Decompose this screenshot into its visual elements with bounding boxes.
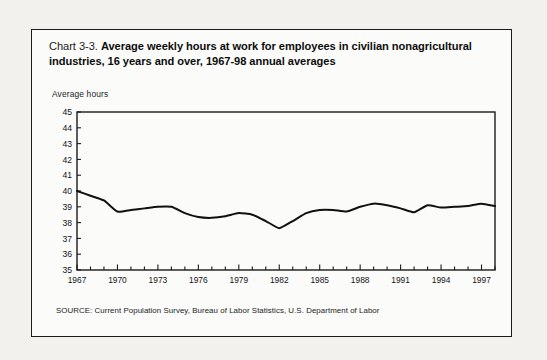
x-tick-label: 1988 <box>351 275 370 285</box>
y-tick-label: 43 <box>62 139 72 149</box>
y-tick-label: 36 <box>62 249 72 259</box>
y-tick-label: 39 <box>62 202 72 212</box>
chart-title-block: Chart 3-3. Average weekly hours at work … <box>49 39 489 68</box>
chart-figure-frame: Chart 3-3. Average weekly hours at work … <box>31 29 512 337</box>
x-tick-label: 1979 <box>229 275 248 285</box>
x-tick-label: 1973 <box>149 275 168 285</box>
x-tick-label: 1997 <box>472 275 491 285</box>
page-title: Average weekly hours at work for employe… <box>49 40 472 67</box>
x-tick-label: 1970 <box>108 275 127 285</box>
y-tick-label: 35 <box>62 265 72 275</box>
line-chart-svg: 3536373839404142434445 19671970197319761… <box>49 108 499 288</box>
x-tick-mark-group <box>77 265 495 271</box>
x-tick-label: 1985 <box>310 275 329 285</box>
source-note: SOURCE: Current Population Survey, Burea… <box>56 306 379 315</box>
y-tick-label: 40 <box>62 186 72 196</box>
y-tick-label-group: 3536373839404142434445 <box>62 108 72 275</box>
y-tick-label: 45 <box>62 108 72 117</box>
x-tick-label-group: 1967197019731976197919821985198819911994… <box>68 275 491 285</box>
x-tick-label: 1994 <box>432 275 451 285</box>
x-tick-label: 1967 <box>68 275 87 285</box>
y-tick-label: 38 <box>62 218 72 228</box>
y-tick-label: 44 <box>62 123 72 133</box>
x-tick-label: 1982 <box>270 275 289 285</box>
chart-number-label: Chart 3-3. <box>49 40 98 52</box>
y-tick-label: 42 <box>62 155 72 165</box>
x-tick-label: 1976 <box>189 275 208 285</box>
x-tick-label: 1991 <box>391 275 410 285</box>
plot-area: 3536373839404142434445 19671970197319761… <box>49 108 499 288</box>
y-tick-label: 41 <box>62 170 72 180</box>
y-axis-title: Average hours <box>52 89 108 99</box>
plot-border-box <box>77 112 495 270</box>
data-series-line <box>77 191 495 228</box>
y-tick-label: 37 <box>62 234 72 244</box>
